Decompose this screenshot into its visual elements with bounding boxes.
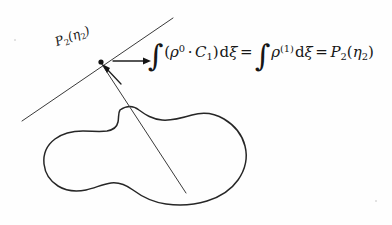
- integral-sign-left: ∫: [148, 38, 164, 73]
- tangent-point-marker: [98, 59, 103, 64]
- rho-symbol: ρ: [170, 43, 179, 61]
- differential-d: d: [219, 43, 230, 61]
- convex-body-outline: [44, 107, 246, 205]
- rho-second-superscript: (1): [280, 43, 294, 54]
- integral-sign-right: ∫: [255, 38, 271, 73]
- result-eta: η: [353, 43, 362, 61]
- lhs-close-paren: ): [213, 43, 219, 61]
- equals-sign-second: =: [313, 43, 331, 61]
- xi-symbol-second: ξ: [305, 43, 313, 61]
- equals-sign-first: =: [237, 43, 255, 61]
- integral-equation: ∫(ρ0·C1)dξ=∫ρ(1)dξ=P2(η2): [148, 44, 374, 62]
- result-base: P: [330, 43, 340, 61]
- rho-symbol-second: ρ: [271, 43, 280, 61]
- dot-operator: ·: [185, 43, 195, 61]
- paper-speck: [14, 39, 16, 41]
- differential-d-second: d: [294, 43, 305, 61]
- c-symbol: C: [195, 43, 206, 61]
- figure-canvas: P2(η2) ∫(ρ0·C1)dξ=∫ρ(1)dξ=P2(η2): [0, 0, 392, 225]
- result-close-paren: ): [368, 43, 374, 61]
- paper-speck: [375, 200, 377, 202]
